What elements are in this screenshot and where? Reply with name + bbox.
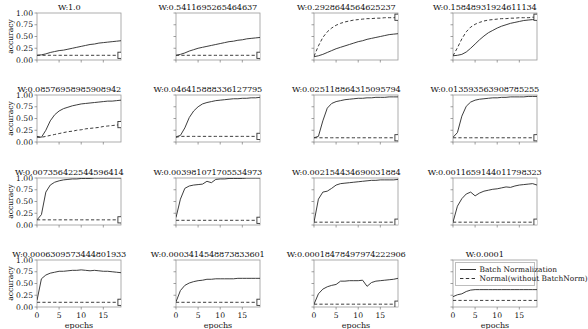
axes-frame bbox=[176, 178, 260, 225]
legend-item: Normal(without BatchNorm) bbox=[459, 274, 531, 283]
plot-area bbox=[277, 82, 416, 164]
subplot-panel: W:0.046415888336127795 bbox=[139, 82, 278, 164]
plot-area bbox=[416, 0, 555, 82]
endpoint-marker bbox=[533, 219, 539, 225]
endpoint-marker bbox=[256, 217, 262, 223]
subplot-panel: W:0.013593563908785255 bbox=[416, 82, 555, 164]
plot-area: 0.000.250.500.751.00accuracy bbox=[0, 0, 139, 82]
axes-frame bbox=[37, 260, 121, 307]
y-tick-label: 0.50 bbox=[16, 197, 33, 206]
endpoint-marker bbox=[118, 122, 124, 128]
x-tick-label: 0 bbox=[35, 311, 40, 320]
endpoint-marker bbox=[118, 52, 124, 58]
y-axis-label: accuracy bbox=[6, 101, 15, 136]
endpoint-marker bbox=[395, 219, 401, 225]
endpoint-marker bbox=[395, 14, 401, 20]
plot-area bbox=[277, 165, 416, 247]
subplot-panel: W:0.0001051015epochsBatch NormalizationN… bbox=[416, 247, 555, 329]
x-tick-label: 5 bbox=[195, 311, 200, 320]
x-tick-label: 0 bbox=[173, 311, 178, 320]
plot-area: 0.000.250.500.751.00051015accuracyepochs bbox=[0, 247, 139, 329]
legend-solid-line-icon bbox=[459, 266, 477, 273]
x-tick-label: 5 bbox=[472, 311, 477, 320]
legend: Batch NormalizationNormal(without BatchN… bbox=[455, 262, 535, 286]
axes-frame bbox=[453, 178, 537, 225]
endpoint-marker bbox=[533, 14, 539, 20]
x-tick-label: 15 bbox=[237, 311, 247, 320]
axes-frame bbox=[314, 95, 398, 142]
y-tick-label: 0.75 bbox=[16, 20, 33, 29]
subplot-panel: W:0.085769589859089420.000.250.500.751.0… bbox=[0, 82, 139, 164]
axes-frame bbox=[314, 178, 398, 225]
x-axis-label: epochs bbox=[480, 321, 508, 329]
legend-item: Batch Normalization bbox=[459, 265, 531, 274]
plot-area: 0.000.250.500.751.00accuracy bbox=[0, 82, 139, 164]
x-tick-label: 10 bbox=[76, 311, 86, 320]
x-axis-label: epochs bbox=[203, 321, 231, 329]
plot-area bbox=[139, 82, 278, 164]
y-tick-label: 0.00 bbox=[16, 302, 33, 311]
plot-area bbox=[139, 0, 278, 82]
axes-frame bbox=[176, 13, 260, 60]
x-tick-label: 5 bbox=[334, 311, 339, 320]
subplot-panel: W:0.5411695265464637 bbox=[139, 0, 278, 82]
y-tick-label: 0.25 bbox=[16, 291, 33, 300]
x-tick-label: 5 bbox=[57, 311, 62, 320]
legend-label: Batch Normalization bbox=[480, 265, 558, 274]
y-tick-label: 1.00 bbox=[16, 9, 33, 18]
subplot-panel: W:0.00018478497974222906051015epochs bbox=[277, 247, 416, 329]
y-tick-label: 0.00 bbox=[16, 220, 33, 229]
y-tick-label: 0.00 bbox=[16, 56, 33, 65]
subplot-panel: W:0.002154434690031884 bbox=[277, 165, 416, 247]
x-tick-label: 10 bbox=[492, 311, 502, 320]
axes-frame bbox=[37, 178, 121, 225]
axes-frame bbox=[453, 95, 537, 142]
x-axis-label: epochs bbox=[65, 321, 93, 329]
y-tick-label: 1.00 bbox=[16, 173, 33, 182]
y-tick-label: 0.75 bbox=[16, 185, 33, 194]
plot-area: 051015epochs bbox=[139, 247, 278, 329]
subplot-panel: W:0.15848931924611134 bbox=[416, 0, 555, 82]
endpoint-marker bbox=[395, 135, 401, 141]
subplot-panel: W:0.025118864315095794 bbox=[277, 82, 416, 164]
endpoint-marker bbox=[118, 299, 124, 305]
x-tick-label: 15 bbox=[98, 311, 108, 320]
y-tick-label: 0.50 bbox=[16, 279, 33, 288]
y-axis-label: accuracy bbox=[6, 183, 15, 218]
subplot-panel: W:0.2928644564625237 bbox=[277, 0, 416, 82]
subplot-panel: W:0.0073564225445964140.000.250.500.751.… bbox=[0, 165, 139, 247]
x-tick-label: 10 bbox=[215, 311, 225, 320]
y-tick-label: 1.00 bbox=[16, 91, 33, 100]
subplot-panel: W:0.003981071705534973 bbox=[139, 165, 278, 247]
legend-label: Normal(without BatchNorm) bbox=[480, 274, 588, 283]
axes-frame bbox=[37, 95, 121, 142]
endpoint-marker bbox=[118, 216, 124, 222]
endpoint-marker bbox=[256, 134, 262, 140]
endpoint-marker bbox=[533, 135, 539, 141]
x-axis-label: epochs bbox=[342, 321, 370, 329]
y-tick-label: 1.00 bbox=[16, 255, 33, 264]
plot-area: 051015epochs bbox=[277, 247, 416, 329]
endpoint-marker bbox=[256, 52, 262, 58]
y-tick-label: 0.75 bbox=[16, 103, 33, 112]
plot-area bbox=[416, 82, 555, 164]
subplot-panel: W:0.0003414548873833601051015epochs bbox=[139, 247, 278, 329]
legend-dashed-line-icon bbox=[459, 275, 477, 282]
subplot-panel: W:0.00063095734448019330.000.250.500.751… bbox=[0, 247, 139, 329]
plot-area: 051015epochs bbox=[416, 247, 555, 329]
y-tick-label: 0.75 bbox=[16, 267, 33, 276]
y-tick-label: 0.25 bbox=[16, 208, 33, 217]
subplot-panel: W:1.00.000.250.500.751.00accuracy bbox=[0, 0, 139, 82]
plot-area bbox=[139, 165, 278, 247]
x-tick-label: 15 bbox=[514, 311, 524, 320]
axes-frame bbox=[314, 260, 398, 307]
x-tick-label: 0 bbox=[450, 311, 455, 320]
endpoint-marker bbox=[256, 299, 262, 305]
y-axis-label: accuracy bbox=[6, 265, 15, 300]
plot-area bbox=[277, 0, 416, 82]
y-tick-label: 0.25 bbox=[16, 44, 33, 53]
x-tick-label: 0 bbox=[312, 311, 317, 320]
endpoint-marker bbox=[395, 301, 401, 307]
y-tick-label: 0.50 bbox=[16, 114, 33, 123]
